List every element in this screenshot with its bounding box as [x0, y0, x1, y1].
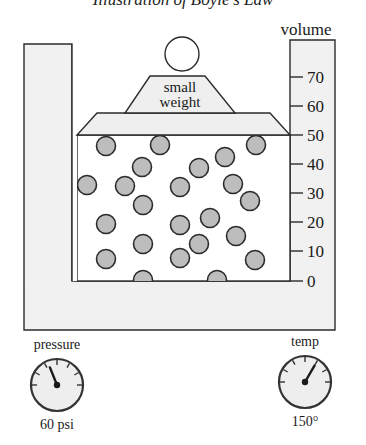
- volume-tick-label: 0: [307, 272, 316, 291]
- volume-tick-label: 10: [307, 242, 324, 261]
- gas-particle: [97, 250, 116, 269]
- volume-tick-label: 20: [307, 213, 324, 232]
- temp-gauge-value: 150°: [292, 414, 319, 429]
- gas-particle: [78, 176, 97, 195]
- apparatus-drawing: small weight 706050403020100 volume pres…: [0, 0, 366, 445]
- gas-particle: [151, 136, 170, 155]
- gas-particle: [246, 251, 265, 270]
- boyles-law-diagram: Illustration of Boyle's Law small weight…: [0, 0, 366, 445]
- temp-gauge-hub: [302, 379, 308, 385]
- gas-particle: [134, 235, 153, 254]
- weight-label-line1: small: [164, 79, 197, 95]
- weight-ball: [165, 37, 199, 71]
- volume-tick-label: 40: [307, 155, 324, 174]
- temp-gauge: temp 150°: [279, 334, 331, 429]
- volume-tick-label: 50: [307, 126, 324, 145]
- gas-particle: [216, 148, 235, 167]
- gas-particle: [171, 249, 190, 268]
- pressure-gauge-value: 60 psi: [40, 417, 74, 432]
- gas-particle: [116, 177, 135, 196]
- temp-gauge-label: temp: [291, 334, 319, 349]
- container-gap: [72, 44, 77, 281]
- gas-particle: [247, 136, 266, 155]
- gas-particle: [190, 159, 209, 178]
- volume-scale-label: volume: [281, 20, 332, 39]
- gas-particle: [134, 196, 153, 215]
- gas-particle: [133, 158, 152, 177]
- gas-particle: [171, 216, 190, 235]
- volume-tick-label: 70: [307, 68, 324, 87]
- gas-particle: [201, 209, 220, 228]
- gas-particle: [224, 175, 243, 194]
- gas-particle: [97, 215, 116, 234]
- volume-tick-label: 30: [307, 184, 324, 203]
- gas-particle: [241, 192, 260, 211]
- gas-particle: [227, 227, 246, 246]
- volume-tick-label: 60: [307, 97, 324, 116]
- pressure-gauge: pressure 60 psi: [31, 337, 83, 432]
- gas-particle: [190, 235, 209, 254]
- gas-particle: [97, 137, 116, 156]
- weight-label-line2: weight: [160, 94, 202, 110]
- gas-particle: [171, 178, 190, 197]
- piston-plate: [77, 113, 290, 135]
- pressure-gauge-label: pressure: [34, 337, 81, 352]
- pressure-gauge-hub: [54, 382, 60, 388]
